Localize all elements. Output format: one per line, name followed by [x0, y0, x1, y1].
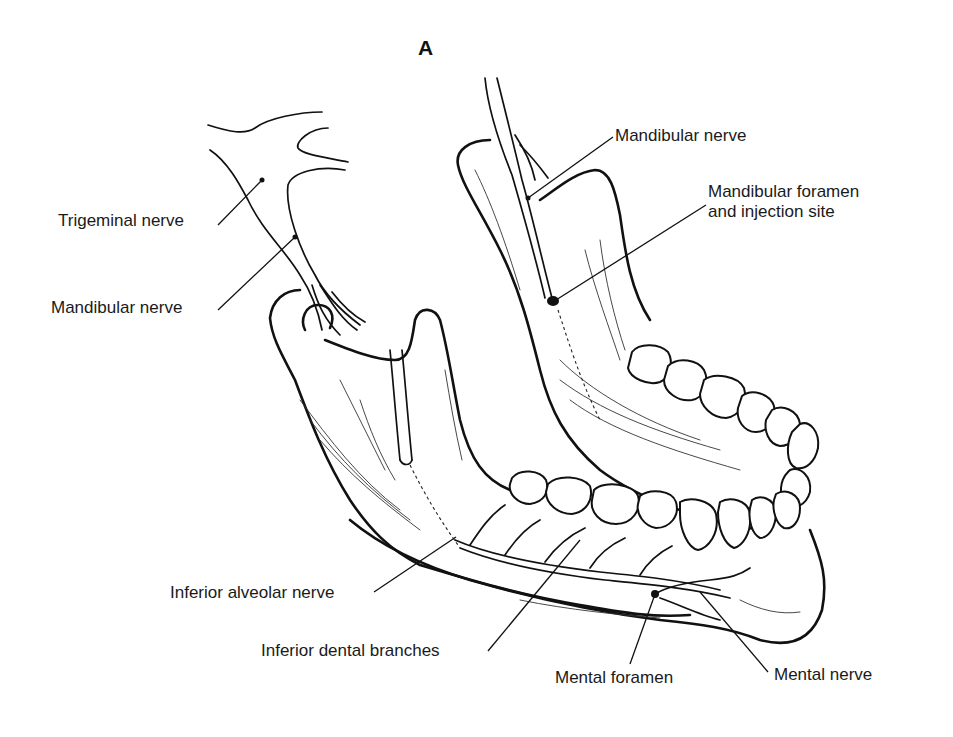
near-mandible-drawing	[270, 290, 824, 643]
label-mandibular-nerve-right: Mandibular nerve	[615, 126, 746, 146]
label-mandibular-foramen-line2: and injection site	[708, 202, 859, 222]
mandible-illustration	[0, 0, 953, 737]
label-mental-nerve: Mental nerve	[774, 665, 872, 685]
panel-label: A	[418, 36, 433, 60]
trigeminal-nerve-drawing	[208, 112, 365, 335]
label-inferior-alveolar-nerve: Inferior alveolar nerve	[170, 583, 334, 603]
label-trigeminal-nerve: Trigeminal nerve	[58, 211, 184, 231]
label-inferior-dental-branches: Inferior dental branches	[261, 641, 440, 661]
diagram-canvas: A Trigeminal nerve Mandibular nerve Mand…	[0, 0, 953, 737]
far-teeth-row	[628, 345, 818, 506]
label-mandibular-foramen: Mandibular foramen and injection site	[708, 182, 859, 222]
label-mental-foramen: Mental foramen	[555, 668, 673, 688]
near-teeth-row	[510, 471, 800, 550]
label-mandibular-foramen-line1: Mandibular foramen	[708, 182, 859, 202]
label-mandibular-nerve-left: Mandibular nerve	[51, 298, 182, 318]
